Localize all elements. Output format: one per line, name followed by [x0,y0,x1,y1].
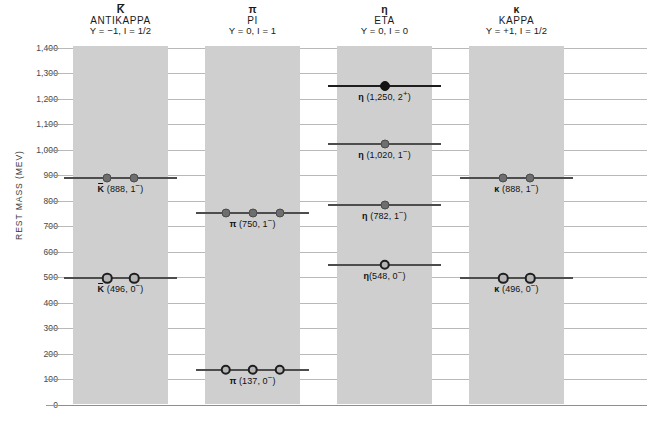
level-label-text: (1,250, 2 [364,92,403,102]
y-axis-tick-mark [46,303,59,304]
level-label-tail: ) [273,219,276,229]
level-line [64,277,177,279]
level-marker [380,140,389,149]
overbar-decoration [98,283,104,284]
level-label-symbol: π [229,219,236,229]
level-label-tail: ) [536,184,539,194]
level-label-tail: ) [408,150,411,160]
level-label: κ (496, 0−) [494,284,538,294]
level-label-symbol: η [362,211,368,221]
level-label: π (750, 1−) [229,219,275,229]
y-axis-tick-mark [46,379,59,380]
level-label-tail: ) [408,92,411,102]
level-line [64,177,177,179]
level-marker [248,209,257,218]
y-axis-tick-mark [46,226,59,227]
level-label-tail: ) [403,271,406,281]
level-label-tail: ) [536,284,539,294]
level-label-text: (496, 0 [104,284,135,294]
level-label-symbol: κ [494,284,499,294]
level-label-text: (137, 0 [236,376,267,386]
level-marker [247,364,258,375]
level-label: π (137, 0−) [229,376,275,386]
level-label: K (888, 1−) [98,184,144,194]
level-label-symbol: κ [494,184,499,194]
chart-root: REST MASS (MEV) 1,4001,3001,2001,1001,00… [0,0,647,430]
gridline [59,405,647,406]
column-band-antikappa [73,46,168,404]
level-label: η (782, 1−) [362,211,407,221]
level-label: κ (888, 1−) [494,184,538,194]
level-marker [380,201,389,210]
level-label: η(548, 0−) [363,271,405,281]
level-label-text: (888, 1 [499,184,530,194]
level-label-text: (496, 0 [499,284,530,294]
y-axis-tick-mark [46,252,59,253]
level-marker [220,364,231,375]
level-label-tail: ) [140,284,143,294]
level-marker [499,174,508,183]
overbar-decoration [98,183,104,184]
level-label-text: (1,020, 1 [364,150,403,160]
level-label-tail: ) [404,211,407,221]
level-label-text: (548, 0 [369,271,398,281]
level-label-text: (888, 1 [104,184,135,194]
level-label-symbol: K [98,184,105,194]
column-band-kappa [469,46,564,404]
level-label-tail: ) [273,376,276,386]
y-axis-tick-mark [46,354,59,355]
y-axis-tick-mark [46,150,59,151]
level-marker [102,273,113,284]
level-line [460,177,573,179]
level-label-text: (782, 1 [368,211,399,221]
level-marker [221,209,230,218]
level-label-text: (750, 1 [236,219,267,229]
level-marker [380,81,390,91]
y-axis-tick-mark [46,405,59,406]
y-axis-tick-mark [46,73,59,74]
level-label: η (1,020, 1−) [358,150,411,160]
level-marker [498,273,509,284]
y-axis-tick-mark [46,48,59,49]
level-label-tail: ) [140,184,143,194]
y-axis-tick-mark [46,99,59,100]
level-label: K (496, 0−) [98,284,144,294]
level-label-symbol: η [358,150,364,160]
level-label-symbol: K [98,284,105,294]
level-label: η (1,250, 2+) [358,92,411,102]
plot-area: K (888, 1−)K (496, 0−)π (750, 1−)π (137,… [59,0,647,430]
level-marker [103,174,112,183]
y-axis-tick-mark [46,175,59,176]
y-axis-tick-mark [46,328,59,329]
y-axis-tick-mark [46,124,59,125]
level-label-symbol: η [358,92,364,102]
level-line [460,277,573,279]
level-marker [275,209,284,218]
y-axis-tick-mark [46,277,59,278]
level-marker [274,364,285,375]
level-marker [379,260,390,271]
y-axis-tick-mark [46,201,59,202]
y-axis: REST MASS (MEV) 1,4001,3001,2001,1001,00… [0,0,58,430]
level-label-symbol: π [229,376,236,386]
level-label-symbol: η [363,271,369,281]
